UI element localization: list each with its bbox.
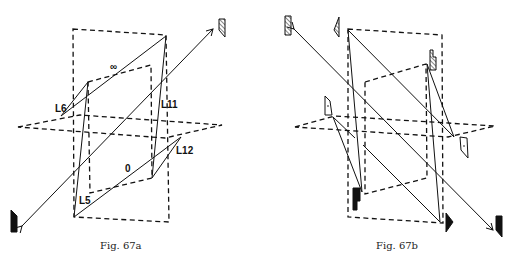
inner-plane <box>365 64 427 194</box>
dotted-prism-icon <box>325 96 332 115</box>
label-L6: L6 <box>55 103 67 114</box>
figure-67a: ∞ L6 L11 L12 0 L5 Fig. 67a <box>11 19 225 251</box>
inner-plane <box>88 65 152 193</box>
label-L12: L12 <box>176 145 194 156</box>
hatched-prism-icon <box>285 16 291 35</box>
caption-67a: Fig. 67a <box>100 240 142 251</box>
solid-prism-icon <box>496 216 502 237</box>
light-path <box>61 36 181 217</box>
outer-plane <box>348 29 443 223</box>
caption-67b: Fig. 67b <box>376 240 418 251</box>
hatched-prism-icon <box>334 17 339 37</box>
diagram-canvas: ∞ L6 L11 L12 0 L5 Fig. 67a <box>0 0 515 264</box>
solid-prism-icon <box>11 210 17 232</box>
light-path-center <box>348 30 454 222</box>
hatched-prism-icon <box>430 50 436 70</box>
horizontal-plane <box>18 115 222 138</box>
label-L5: L5 <box>79 195 91 206</box>
horizontal-plane <box>295 116 495 137</box>
solid-prism-icon <box>446 213 453 232</box>
optical-axis <box>22 29 213 226</box>
outer-plane <box>73 29 169 222</box>
figure-67b: Fig. 67b <box>285 16 502 251</box>
dotted-prism-icon <box>460 137 468 158</box>
label-infinity: ∞ <box>110 61 117 72</box>
label-zero: 0 <box>125 163 131 174</box>
label-L11: L11 <box>161 99 178 110</box>
hatched-prism-icon <box>219 19 225 37</box>
solid-prism-icon <box>353 188 360 210</box>
